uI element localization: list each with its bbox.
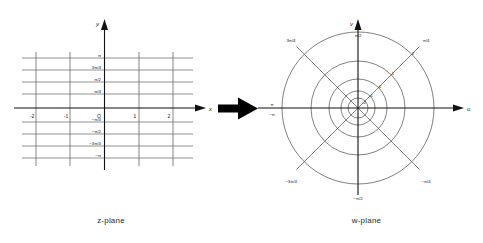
w-plane-plot: v u π/2 3π/4 π/4 π −π −3π/4 −π/4 −π/2 2 … xyxy=(250,0,483,210)
w-angle-label-pi4: π/4 xyxy=(423,38,430,43)
w-radial-label-neg1: -1 xyxy=(369,93,373,98)
w-angle-label-3pi4: 3π/4 xyxy=(286,38,296,43)
w-plane-panel: v u π/2 3π/4 π/4 π −π −3π/4 −π/4 −π/2 2 … xyxy=(250,0,483,243)
z-ytick-neg-pi: −π xyxy=(95,153,101,158)
w-v-axis xyxy=(355,19,362,195)
z-x-axis-label: x xyxy=(208,106,213,112)
w-angle-label-pi2: π/2 xyxy=(355,33,362,38)
w-u-axis-label: u xyxy=(467,106,471,112)
z-plane-plot: y x -2 -1 1 2 O π 3π/4 π/2 π/4 −π/4 −π/2… xyxy=(0,0,222,210)
z-ytick-neg-3pi4: −3π/4 xyxy=(89,141,101,146)
w-angle-label-neg-pi2: −π/2 xyxy=(353,196,363,201)
z-plane-caption: z-plane xyxy=(0,216,222,225)
z-xtick-2: 2 xyxy=(168,113,171,119)
mapping-figure: y x -2 -1 1 2 O π 3π/4 π/2 π/4 −π/4 −π/2… xyxy=(0,0,483,243)
z-xtick-1: 1 xyxy=(134,113,137,119)
v-axis-arrowhead xyxy=(355,19,362,30)
z-ytick-pi2: π/2 xyxy=(94,77,101,82)
z-ytick-pi4: π/4 xyxy=(94,89,101,94)
y-axis-arrowhead xyxy=(101,19,108,30)
z-y-axis xyxy=(101,19,108,170)
w-angle-label-neg-3pi4: −3π/4 xyxy=(285,179,297,184)
z-x-axis xyxy=(14,105,206,112)
w-u-axis xyxy=(258,105,464,112)
z-plane-panel: y x -2 -1 1 2 O π 3π/4 π/2 π/4 −π/4 −π/2… xyxy=(0,0,222,243)
w-v-axis-label: v xyxy=(350,21,354,27)
w-plane-caption: w-plane xyxy=(250,216,483,225)
x-axis-arrowhead xyxy=(195,105,206,112)
w-angle-label-neg-pi4: −π/4 xyxy=(421,179,431,184)
u-axis-arrowhead xyxy=(453,105,464,112)
w-angle-label-pi: π xyxy=(270,102,273,107)
w-radial-label-neg2: -2 xyxy=(362,100,366,105)
w-angle-label-neg-pi: −π xyxy=(269,112,275,117)
z-ytick-neg-pi4: −π/4 xyxy=(92,117,102,122)
z-y-axis-label: y xyxy=(95,21,100,27)
z-ytick-neg-pi2: −π/2 xyxy=(92,129,102,134)
z-xtick-neg2: -2 xyxy=(30,113,35,119)
z-xtick-neg1: -1 xyxy=(64,113,69,119)
z-ytick-pi: π xyxy=(98,53,101,58)
z-ytick-3pi4: 3π/4 xyxy=(92,65,102,70)
